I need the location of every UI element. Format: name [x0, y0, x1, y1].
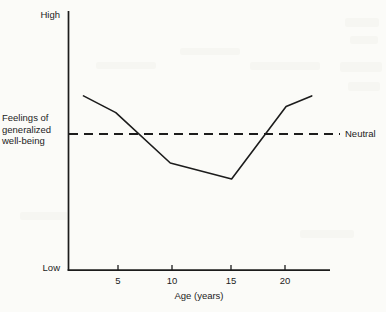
x-tick-label-20: 20	[280, 275, 291, 286]
neutral-line-label: Neutral	[345, 128, 376, 140]
y-axis-title-line-1: Feelings of	[2, 112, 64, 124]
x-tick-label-15: 15	[226, 275, 237, 286]
y-axis-title-line-3: well-being	[2, 135, 64, 147]
x-axis-title: Age (years)	[68, 290, 330, 302]
y-axis-high-label: High	[0, 9, 60, 21]
y-axis-title: Feelings of generalized well-being	[2, 112, 64, 147]
y-axis-title-line-2: generalized	[2, 124, 64, 136]
x-tick-label-5: 5	[115, 275, 120, 286]
x-tick-label-10: 10	[167, 275, 178, 286]
y-axis-low-label: Low	[0, 262, 60, 274]
